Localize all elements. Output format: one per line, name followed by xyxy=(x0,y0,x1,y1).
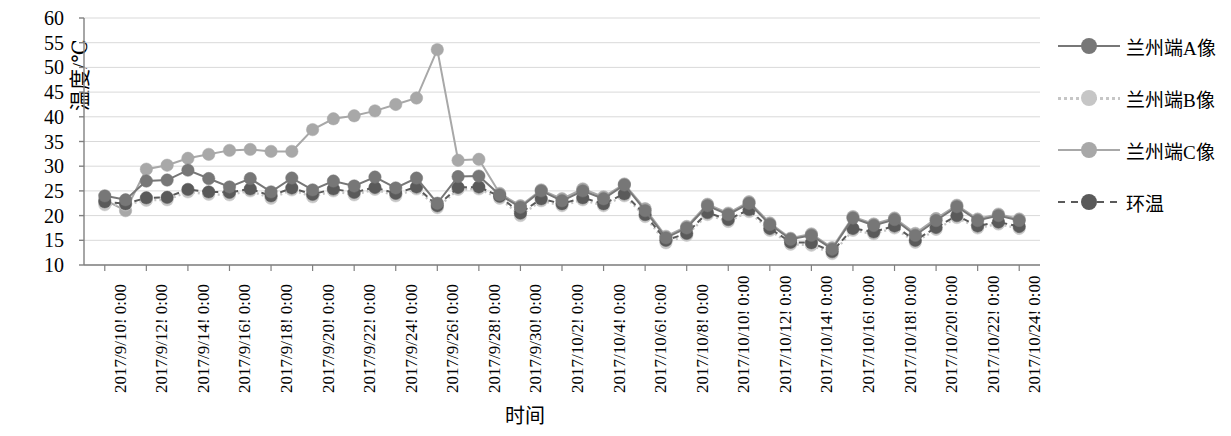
data-point xyxy=(764,218,776,230)
data-point xyxy=(784,233,796,245)
data-point xyxy=(1013,214,1025,226)
data-point xyxy=(473,170,485,182)
x-axis-tick-label: 2017/10/10! 0:00 xyxy=(735,275,752,393)
data-point xyxy=(971,214,983,226)
x-axis-tick-label: 2017/9/22! 0:00 xyxy=(361,284,378,393)
x-axis-tick-label: 2017/10/4! 0:00 xyxy=(611,284,628,393)
data-point xyxy=(452,170,464,182)
x-axis-tick-label: 2017/9/18! 0:00 xyxy=(278,284,295,393)
data-point xyxy=(452,154,464,166)
data-point xyxy=(390,98,402,110)
data-point xyxy=(743,197,755,209)
legend-marker xyxy=(1081,90,1097,106)
data-point xyxy=(992,209,1004,221)
data-point xyxy=(140,163,152,175)
data-point xyxy=(327,175,339,187)
legend-key-icon xyxy=(1058,88,1120,108)
data-point xyxy=(202,148,214,160)
data-point xyxy=(327,113,339,125)
data-point xyxy=(369,105,381,117)
data-point xyxy=(348,110,360,122)
data-point xyxy=(182,164,194,176)
data-point xyxy=(618,179,630,191)
x-axis-tick-label: 2017/10/16! 0:00 xyxy=(860,275,877,393)
data-point xyxy=(286,145,298,157)
data-point xyxy=(514,201,526,213)
data-point xyxy=(244,143,256,155)
x-axis-tick-label: 2017/10/8! 0:00 xyxy=(694,284,711,393)
x-axis-tick-label: 2017/10/14! 0:00 xyxy=(818,275,835,393)
data-point xyxy=(182,152,194,164)
data-point xyxy=(182,183,194,195)
data-point xyxy=(535,185,547,197)
legend-label: 兰州端B像 xyxy=(1120,85,1215,112)
data-point xyxy=(826,243,838,255)
data-point xyxy=(348,180,360,192)
data-point xyxy=(805,229,817,241)
data-point xyxy=(868,219,880,231)
data-point xyxy=(99,190,111,202)
legend-item-2[interactable]: 兰州端B像 xyxy=(1058,72,1231,124)
x-axis-tick-label: 2017/9/26! 0:00 xyxy=(444,284,461,393)
x-axis-title: 时间 xyxy=(0,400,1050,429)
x-axis-tick-label: 2017/10/22! 0:00 xyxy=(985,275,1002,393)
legend-marker xyxy=(1081,142,1097,158)
series-line-3 xyxy=(105,50,1019,248)
data-point xyxy=(660,232,672,244)
data-point xyxy=(202,172,214,184)
data-point xyxy=(223,181,235,193)
x-axis-tick-label: 2017/9/28! 0:00 xyxy=(486,284,503,393)
data-point xyxy=(431,197,443,209)
legend-item-3[interactable]: 兰州端C像 xyxy=(1058,124,1231,176)
data-point xyxy=(306,123,318,135)
legend-item-4[interactable]: 环温 xyxy=(1058,176,1231,228)
legend-key-icon xyxy=(1058,192,1120,212)
legend-label: 兰州端C像 xyxy=(1120,137,1215,164)
data-point xyxy=(202,186,214,198)
data-point xyxy=(639,204,651,216)
legend-key-icon xyxy=(1058,140,1120,160)
x-axis-tick-label: 2017/9/16! 0:00 xyxy=(236,284,253,393)
data-point xyxy=(161,191,173,203)
data-point xyxy=(577,185,589,197)
data-point xyxy=(369,171,381,183)
data-point xyxy=(306,184,318,196)
data-point xyxy=(265,145,277,157)
x-axis-tick-label: 2017/10/12! 0:00 xyxy=(777,275,794,393)
data-point xyxy=(286,172,298,184)
legend-label: 兰州端A像 xyxy=(1120,33,1216,60)
data-point xyxy=(493,189,505,201)
x-axis-tick-label: 2017/9/20! 0:00 xyxy=(320,284,337,393)
x-axis-tick-label: 2017/9/12! 0:00 xyxy=(153,284,170,393)
x-axis-tick-label: 2017/9/10! 0:00 xyxy=(112,284,129,393)
x-axis-tick-label: 2017/10/6! 0:00 xyxy=(652,284,669,393)
x-axis-tick-label: 2017/9/30! 0:00 xyxy=(527,284,544,393)
data-point xyxy=(909,229,921,241)
legend-item-1[interactable]: 兰州端A像 xyxy=(1058,20,1231,72)
data-point xyxy=(223,144,235,156)
data-point xyxy=(140,175,152,187)
x-axis-tick-label: 2017/9/24! 0:00 xyxy=(403,284,420,393)
data-point xyxy=(265,186,277,198)
legend-marker xyxy=(1081,38,1097,54)
data-point xyxy=(951,201,963,213)
x-axis-tick-label: 2017/10/20! 0:00 xyxy=(943,275,960,393)
data-point xyxy=(722,208,734,220)
data-point xyxy=(161,174,173,186)
x-axis-tick-label: 2017/10/2! 0:00 xyxy=(569,284,586,393)
chart-legend: 兰州端A像兰州端B像兰州端C像环温 xyxy=(1058,20,1231,228)
data-point xyxy=(680,222,692,234)
data-point xyxy=(473,153,485,165)
data-point xyxy=(410,92,422,104)
x-axis-tick-label: 2017/10/18! 0:00 xyxy=(902,275,919,393)
data-point xyxy=(930,214,942,226)
data-point xyxy=(888,213,900,225)
temperature-line-chart: 温度/℃ 6055504540353025201510 2017/9/10! 0… xyxy=(0,0,1231,436)
data-point xyxy=(701,200,713,212)
data-point xyxy=(556,195,568,207)
data-point xyxy=(847,212,859,224)
legend-marker xyxy=(1081,194,1097,210)
data-point xyxy=(473,181,485,193)
data-point xyxy=(390,182,402,194)
data-point xyxy=(119,194,131,206)
